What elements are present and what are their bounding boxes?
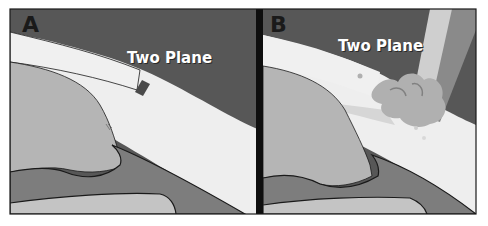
panel-b-title: Two Plane	[338, 37, 423, 55]
panel-a-letter: A	[22, 12, 39, 37]
panel-a-title: Two Plane	[127, 49, 212, 67]
two-plane-incision-figure: A Two Plane Two Plane	[0, 0, 488, 226]
panel-b-letter: B	[270, 12, 287, 37]
panel-b: B Two Plane Two Plane	[263, 9, 476, 214]
panel-a: A Two Plane Two Plane	[10, 9, 260, 214]
panel-divider	[256, 9, 263, 214]
